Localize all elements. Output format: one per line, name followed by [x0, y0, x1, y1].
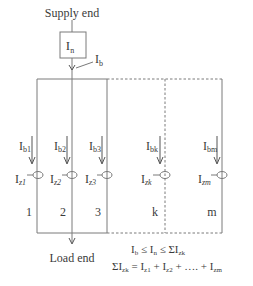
- ibm-label: Ibm: [203, 139, 218, 154]
- equation-inequality: Ib ≤ In ≤ ΣIzk: [131, 243, 186, 257]
- izm-label: Izm: [198, 172, 211, 187]
- conductor-index-k: k: [152, 205, 158, 219]
- izk-label: Izk: [141, 172, 152, 187]
- supply-end-label: Supply end: [45, 6, 99, 20]
- parallel-conductors-diagram: Supply end In Ib Load end Ib1 Ib2 Ib3 Ib…: [0, 0, 253, 286]
- ibk-label: Ibk: [146, 139, 158, 154]
- load-end-label: Load end: [50, 251, 95, 265]
- ib-leader-line: [76, 62, 93, 68]
- conductor-index-m: m: [207, 205, 217, 219]
- conductor-index-1: 1: [26, 205, 32, 219]
- current-sensor-icon: [33, 172, 43, 179]
- device-rating-label: In: [66, 38, 74, 55]
- ib2-label: Ib2: [54, 139, 66, 154]
- feed-current-label: Ib: [95, 52, 103, 68]
- conductor-index-3: 3: [95, 205, 101, 219]
- iz1-label: Iz1: [15, 172, 26, 187]
- ib3-label: Ib3: [89, 139, 101, 154]
- ib1-label: Ib1: [19, 139, 31, 154]
- iz3-label: Iz3: [85, 172, 96, 187]
- conductor-index-2: 2: [60, 205, 66, 219]
- iz2-label: Iz2: [50, 172, 61, 187]
- equation-sum: ΣIzk = Iz1 + Iz2 + …. + Izm: [112, 260, 223, 274]
